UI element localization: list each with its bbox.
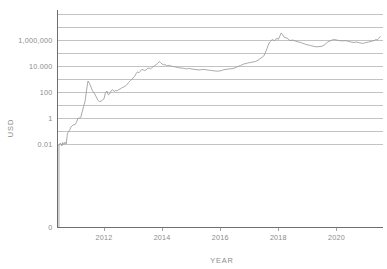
x-axis-title: YEAR: [210, 256, 234, 265]
axis-lines: [58, 10, 384, 228]
chart-container: 1,000,00010.00010010.010 201220142016201…: [0, 0, 387, 269]
y-tick-label: 10.000: [29, 62, 52, 71]
x-tick-label: 2014: [154, 233, 171, 242]
y-tick-label: 1,000,000: [18, 36, 52, 45]
x-tick-label: 2012: [96, 233, 113, 242]
y-tick-label: 0.01: [38, 140, 53, 149]
line-chart: 1,000,00010.00010010.010 201220142016201…: [0, 0, 387, 269]
y-tick-label: 100: [40, 88, 53, 97]
y-axis-title: USD: [6, 119, 15, 137]
series-line: [59, 33, 380, 146]
gridlines: [58, 14, 384, 144]
series-lines: [59, 33, 380, 228]
y-tick-label: 0: [48, 223, 52, 232]
x-tick-label: 2018: [270, 233, 287, 242]
x-tick-label: 2020: [328, 233, 345, 242]
y-tick-labels: 1,000,00010.00010010.010: [18, 36, 52, 233]
y-tick-label: 1: [48, 114, 52, 123]
x-tick-label: 2016: [212, 233, 229, 242]
x-tick-labels: 20122014201620182020: [96, 233, 346, 242]
